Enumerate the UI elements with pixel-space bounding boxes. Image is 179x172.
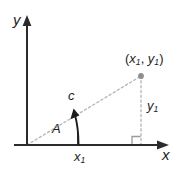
y-axis-label: y	[13, 12, 21, 27]
plotted-point-marker	[138, 73, 144, 79]
horizontal-leg-var: x	[74, 149, 81, 164]
vertical-leg-label: y1	[147, 99, 158, 112]
horizontal-leg-subscript: 1	[81, 155, 86, 165]
vertical-leg-subscript: 1	[154, 104, 159, 114]
hypotenuse-dashed-line	[27, 76, 141, 145]
point-comma: ,	[141, 51, 148, 66]
point-x-var: x	[129, 51, 136, 66]
point-x-subscript: 1	[136, 57, 141, 67]
hypotenuse-label: c	[68, 89, 75, 102]
horizontal-leg-label: x1	[74, 150, 85, 163]
point-close-paren: )	[159, 51, 163, 66]
point-y-subscript: 1	[154, 57, 159, 67]
angle-label: A	[52, 122, 61, 135]
angle-arrow-curve	[75, 115, 79, 146]
point-coordinate-label: (x1, y1)	[125, 52, 163, 65]
figure-canvas	[0, 0, 179, 172]
x-axis-label: x	[162, 147, 170, 162]
geometry-figure: y x (x1, y1) y1 x1 c A	[0, 0, 179, 172]
y-axis-arrowhead-icon	[23, 15, 32, 26]
vertical-leg-var: y	[147, 98, 154, 113]
right-angle-marker-icon	[132, 137, 141, 146]
